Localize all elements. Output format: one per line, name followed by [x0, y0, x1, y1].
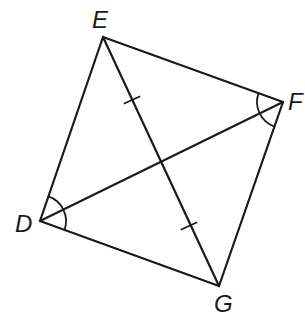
vertex-label-e: E [92, 8, 108, 32]
geometry-diagram [0, 0, 305, 320]
vertex-label-d: D [15, 212, 32, 236]
side-de [40, 37, 103, 221]
diagonal-df [40, 102, 283, 221]
vertex-label-g: G [214, 292, 233, 316]
vertex-label-f: F [288, 90, 303, 114]
side-ef [103, 37, 283, 102]
